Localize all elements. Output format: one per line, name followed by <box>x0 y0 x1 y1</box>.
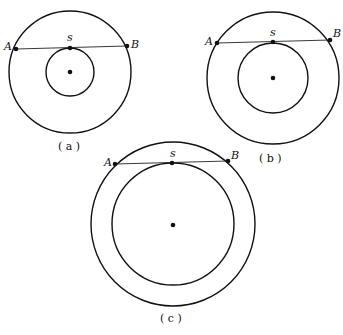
point-a <box>215 41 220 46</box>
point-a <box>113 162 118 167</box>
point-s <box>170 161 175 166</box>
point-b <box>125 44 130 49</box>
label-b: B <box>130 38 139 51</box>
label-b: B <box>230 149 239 162</box>
label-s: s <box>67 31 73 44</box>
label-a: A <box>204 35 213 48</box>
figure-c: A s B ( c ) <box>91 142 255 325</box>
label-s: s <box>270 26 276 39</box>
point-s <box>271 40 276 45</box>
center-point <box>271 76 276 81</box>
center-point <box>68 70 73 75</box>
caption-b: ( b ) <box>259 152 282 165</box>
label-b: B <box>332 27 341 40</box>
figure-a: A s B ( a ) <box>3 11 139 153</box>
point-s <box>68 46 73 51</box>
concentric-circles-diagram: A s B ( a ) A s B ( b ) A s B ( c ) <box>0 0 343 335</box>
center-point <box>171 223 176 228</box>
point-a <box>14 47 19 52</box>
label-s: s <box>170 147 176 160</box>
caption-a: ( a ) <box>58 140 80 153</box>
figure-b: A s B ( b ) <box>204 12 341 165</box>
caption-c: ( c ) <box>160 312 182 325</box>
point-b <box>226 159 231 164</box>
label-a: A <box>3 40 12 53</box>
point-b <box>328 38 333 43</box>
label-a: A <box>103 156 112 169</box>
